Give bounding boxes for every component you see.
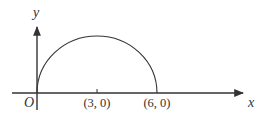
diagram-canvas: y x O (3, 0) (6, 0) <box>0 0 264 119</box>
point-label-center: (3, 0) <box>83 96 110 110</box>
semicircle-arc <box>37 36 157 93</box>
origin-label: O <box>24 95 34 110</box>
semicircle-diagram: y x O (3, 0) (6, 0) <box>0 0 264 119</box>
point-label-end: (6, 0) <box>143 96 170 110</box>
x-axis-label: x <box>247 95 255 110</box>
y-axis-label: y <box>31 5 40 20</box>
